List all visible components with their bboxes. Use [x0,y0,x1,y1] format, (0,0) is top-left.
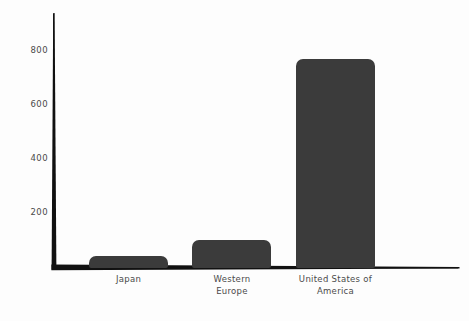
bar-united-states-of-america[interactable] [296,59,375,268]
bar-chart: 200 400 600 800 Japan Western Europe Uni… [0,0,469,321]
plot-area: 200 400 600 800 Japan Western Europe Uni… [0,0,469,321]
bars-layer [0,0,469,321]
bar-japan[interactable] [89,256,168,268]
x-tick-label-japan: Japan [74,274,184,286]
bar-western-europe[interactable] [192,240,271,268]
x-tick-label-united-states-of-america: United States of America [271,274,401,297]
